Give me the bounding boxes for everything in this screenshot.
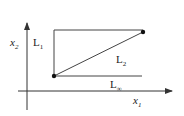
l2-path xyxy=(54,32,143,76)
y-axis-label: x2 xyxy=(9,36,19,51)
diagram-canvas: x2 L1 L2 L∞ x1 xyxy=(0,0,184,116)
l2-label: L2 xyxy=(116,53,127,68)
point-b xyxy=(141,30,145,34)
x-axis-label: x1 xyxy=(132,94,141,109)
point-a xyxy=(52,74,56,78)
l1-label: L1 xyxy=(33,36,44,51)
distance-metrics-diagram: x2 L1 L2 L∞ x1 xyxy=(0,0,184,116)
